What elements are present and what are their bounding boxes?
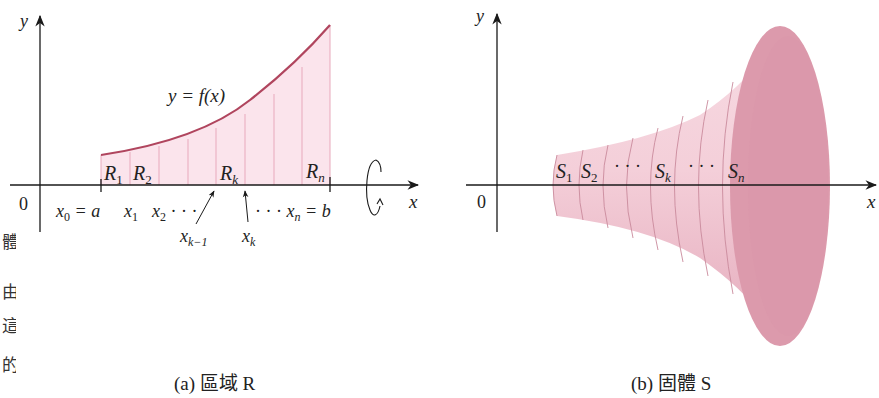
origin-label-right: 0 <box>477 192 486 212</box>
solid-of-revolution-figure: y x 0 y = f(x) R1 R2 Rk Rn x0 = a x1 x2 … <box>0 0 879 398</box>
pointer-xk-minus-1 <box>196 191 214 224</box>
tick-label-xk: xk <box>241 226 256 249</box>
slice-ellipsis-1: · · · <box>614 156 641 176</box>
rotation-arrow-icon <box>367 160 383 215</box>
tick-label-x0-a: x0 = a <box>55 201 100 224</box>
tick-label-x1: x1 <box>123 201 138 224</box>
side-text-fragment-2: 由 <box>2 282 16 302</box>
side-text-fragment-4: 的 <box>2 355 16 375</box>
solid-end-cap-shade <box>748 36 828 336</box>
origin-label-left: 0 <box>19 194 28 214</box>
x-axis-label-right: x <box>866 191 876 212</box>
y-axis-label-left: y <box>18 11 28 31</box>
tick-label-x2: x2 · · · <box>151 201 197 224</box>
region-r-panel: y x 0 y = f(x) R1 R2 Rk Rn x0 = a x1 x2 … <box>10 11 418 249</box>
y-axis-label-right: y <box>474 6 484 26</box>
tick-label-xk-minus-1: xk−1 <box>179 226 207 249</box>
pointer-xk <box>245 191 248 222</box>
curve-label: y = f(x) <box>166 85 225 107</box>
caption-solid-s: (b) 固體 S <box>631 368 711 395</box>
caption-region-r: (a) 區域 R <box>174 368 255 395</box>
solid-s-panel: y x 0 S1 S2 · · · Sk · · · Sn <box>466 6 876 346</box>
tick-label-xn-b: · · · xn = b <box>255 201 331 224</box>
side-text-fragment-1: 體 <box>2 232 16 252</box>
side-text-fragment-3: 這 <box>2 316 16 336</box>
x-axis-label-left: x <box>408 191 418 212</box>
slice-ellipsis-2: · · · <box>688 156 715 176</box>
